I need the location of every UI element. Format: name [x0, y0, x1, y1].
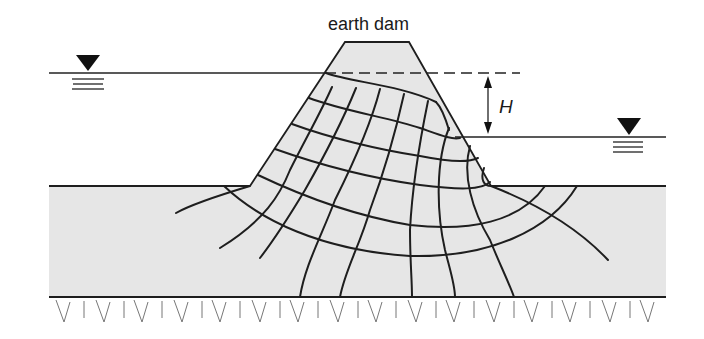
upstream-water-triangle-icon [76, 55, 100, 71]
downstream-water-ripple-icon [613, 142, 643, 152]
earth-dam-flow-net-diagram: H earth dam [0, 0, 704, 339]
upstream-water-ripple-icon [72, 79, 104, 89]
dam-body [250, 42, 491, 186]
foundation-soil-layer [49, 186, 666, 298]
diagram-title: earth dam [328, 14, 409, 34]
downstream-water-triangle-icon [617, 118, 641, 135]
head-label: H [499, 96, 513, 117]
head-difference-arrow [484, 76, 492, 134]
impermeable-base-hatching [56, 300, 654, 322]
